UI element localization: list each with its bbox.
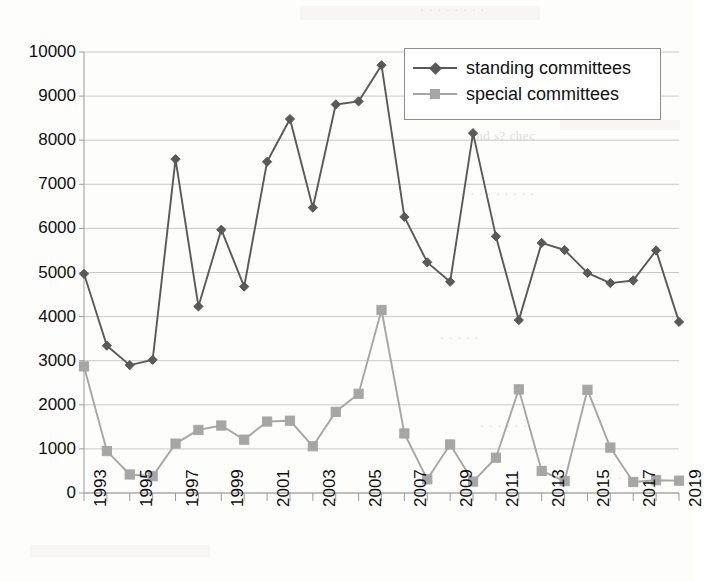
x-axis-tick-label: 2015 <box>594 469 614 507</box>
x-axis-tick-label: 2003 <box>320 469 340 507</box>
x-axis-tick-label: 1995 <box>137 469 157 507</box>
x-axis-tick-label: 1997 <box>183 469 203 507</box>
x-axis-tick-label: 1993 <box>91 469 111 507</box>
square-marker-icon <box>413 86 457 102</box>
x-axis-tick-label: 2007 <box>411 469 431 507</box>
x-axis-tick-label: 2001 <box>274 469 294 507</box>
x-axis-tick-label: 2019 <box>686 469 706 507</box>
x-axis-tick-label: 2013 <box>549 469 569 507</box>
legend-item-special-committees: special committees <box>413 81 650 107</box>
chart-legend: standing committees special committees <box>404 48 661 120</box>
legend-item-label: standing committees <box>466 58 631 79</box>
x-axis-tick-label: 2017 <box>640 469 660 507</box>
legend-diamond <box>429 62 442 75</box>
x-axis-tick-label: 2005 <box>366 469 386 507</box>
x-axis-tick-label: 2011 <box>503 470 523 507</box>
legend-square <box>430 89 440 99</box>
legend-item-standing-committees: standing committees <box>413 55 650 81</box>
legend-item-label: special committees <box>466 84 619 105</box>
x-axis-tick-label: 2009 <box>457 469 477 507</box>
x-axis-tick-label: 1999 <box>228 469 248 507</box>
diamond-marker-icon <box>413 60 457 76</box>
